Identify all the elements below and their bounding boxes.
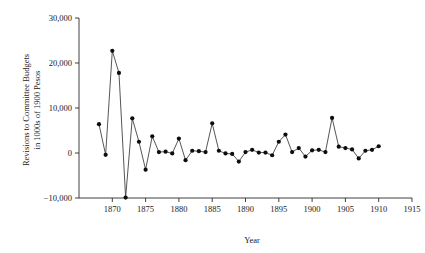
x-axis-ticks: 1870187518801885189018951900190519101915 (104, 198, 421, 214)
series-line (99, 51, 379, 198)
line-chart: −10,000010,00020,00030,000 1870187518801… (0, 0, 425, 253)
data-point (357, 156, 361, 160)
x-tick-label: 1885 (204, 204, 221, 214)
y-axis: −10,000010,00020,00030,000 (44, 13, 79, 203)
data-point (157, 150, 161, 154)
data-point (330, 116, 334, 120)
data-point (203, 150, 207, 154)
data-point (117, 71, 121, 75)
data-point (217, 149, 221, 153)
data-point (104, 153, 108, 157)
data-point (303, 155, 307, 159)
x-tick-label: 1890 (237, 204, 254, 214)
x-tick-label: 1905 (337, 204, 354, 214)
data-point (337, 145, 341, 149)
x-tick-label: 1880 (170, 204, 187, 214)
x-tick-label: 1900 (304, 204, 321, 214)
data-point (363, 149, 367, 153)
x-axis: 1870187518801885189018951900190519101915 (79, 198, 421, 214)
data-point (277, 140, 281, 144)
data-point (144, 168, 148, 172)
data-point (323, 150, 327, 154)
data-point (290, 150, 294, 154)
data-point (237, 159, 241, 163)
chart-figure: −10,000010,00020,00030,000 1870187518801… (0, 0, 425, 253)
data-point (163, 150, 167, 154)
y-tick-label: 20,000 (49, 58, 72, 68)
y-tick-label: 30,000 (49, 13, 72, 23)
data-point (170, 151, 174, 155)
y-axis-title: Revisions to Committee Budgets in 1000s … (21, 54, 42, 166)
y-tick-label: −10,000 (44, 193, 72, 203)
data-point (150, 134, 154, 138)
data-point (263, 150, 267, 154)
x-tick-label: 1870 (104, 204, 121, 214)
data-point (250, 148, 254, 152)
data-point (230, 152, 234, 156)
data-point (197, 149, 201, 153)
data-point (110, 49, 114, 53)
data-point (183, 158, 187, 162)
series-markers (97, 49, 381, 200)
y-tick-label: 10,000 (49, 103, 72, 113)
data-point (270, 153, 274, 157)
y-axis-title-line-2: in 1000s of 1900 Pesos (32, 71, 42, 150)
x-tick-label: 1915 (404, 204, 421, 214)
data-point (137, 140, 141, 144)
data-point (297, 146, 301, 150)
data-point (190, 149, 194, 153)
data-point (223, 151, 227, 155)
data-point (97, 122, 101, 126)
data-point (130, 116, 134, 120)
data-point (177, 137, 181, 141)
data-point (257, 150, 261, 154)
data-point (283, 132, 287, 136)
x-tick-label: 1910 (370, 204, 387, 214)
data-point (317, 148, 321, 152)
x-tick-label: 1875 (137, 204, 154, 214)
x-tick-label: 1895 (270, 204, 287, 214)
data-point (370, 148, 374, 152)
data-point (243, 150, 247, 154)
y-axis-title-line-1: Revisions to Committee Budgets (21, 54, 31, 166)
x-axis-title: Year (244, 235, 260, 245)
y-tick-label: 0 (68, 148, 72, 158)
data-point (343, 146, 347, 150)
data-point (350, 147, 354, 151)
data-point (310, 148, 314, 152)
data-point (124, 195, 128, 199)
data-point (210, 121, 214, 125)
y-axis-ticks: −10,000010,00020,00030,000 (44, 13, 79, 203)
plot-area (97, 49, 381, 200)
data-point (377, 144, 381, 148)
